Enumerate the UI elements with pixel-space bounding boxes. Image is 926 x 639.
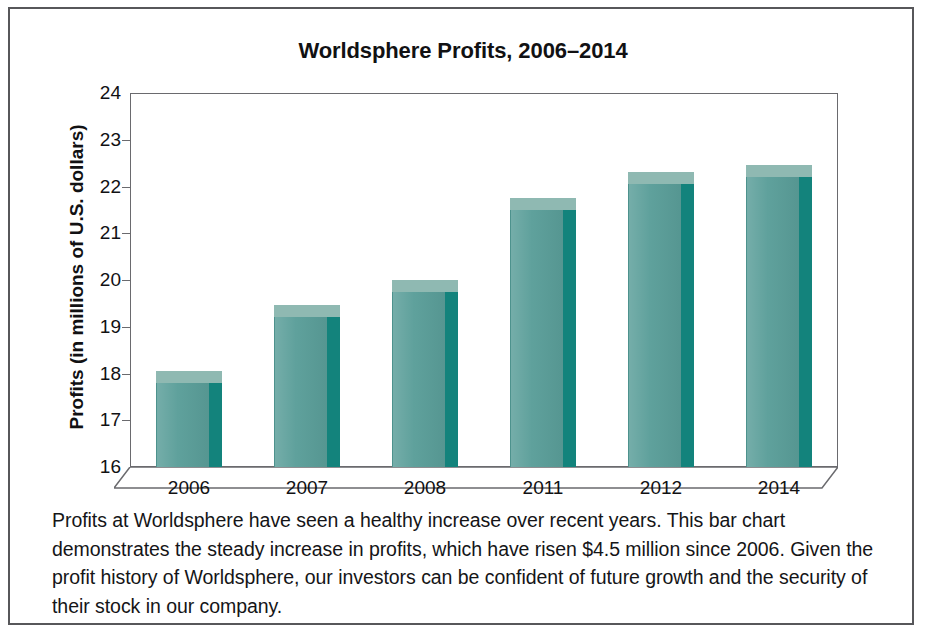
bar-top-side-face bbox=[562, 198, 576, 210]
bar-top-side-face bbox=[798, 165, 812, 177]
plot-area: 242322212019181716 bbox=[10, 71, 916, 506]
bar bbox=[628, 184, 680, 467]
bar-top-face bbox=[156, 371, 208, 383]
bar-front-face bbox=[156, 383, 209, 467]
x-tick-label: 2007 bbox=[252, 477, 362, 499]
bar-top-face bbox=[392, 280, 444, 292]
y-tick-mark bbox=[122, 187, 131, 188]
y-tick-label: 18 bbox=[81, 363, 121, 385]
bar-top-side-face bbox=[326, 305, 340, 317]
bar-front-face bbox=[510, 210, 563, 467]
y-tick-mark bbox=[122, 140, 131, 141]
bar-front-face bbox=[392, 292, 445, 467]
y-tick-mark bbox=[122, 374, 131, 375]
bar bbox=[746, 177, 798, 467]
bar-series bbox=[130, 71, 838, 506]
y-tick-label: 17 bbox=[81, 409, 121, 431]
figure-panel: Worldsphere Profits, 2006–2014 Profits (… bbox=[8, 7, 914, 625]
y-tick-label: 23 bbox=[81, 129, 121, 151]
figure-caption: Profits at Worldsphere have seen a healt… bbox=[52, 506, 880, 620]
bar bbox=[510, 210, 562, 467]
bar-top-face bbox=[510, 198, 562, 210]
y-tick-label: 21 bbox=[81, 222, 121, 244]
y-tick-label: 24 bbox=[81, 82, 121, 104]
x-tick-label: 2006 bbox=[134, 477, 244, 499]
y-tick-mark bbox=[122, 280, 131, 281]
bar-side-face bbox=[326, 317, 340, 467]
bar-side-face bbox=[208, 383, 222, 467]
bar-front-face bbox=[746, 177, 799, 467]
bar-top-face bbox=[274, 305, 326, 317]
y-tick-label: 22 bbox=[81, 176, 121, 198]
bar-front-face bbox=[274, 317, 327, 467]
y-tick-label: 16 bbox=[81, 456, 121, 478]
x-tick-label: 2014 bbox=[724, 477, 834, 499]
chart-title: Worldsphere Profits, 2006–2014 bbox=[10, 38, 916, 64]
bar-chart: Profits (in millions of U.S. dollars) 24… bbox=[10, 71, 916, 506]
y-tick-label: 19 bbox=[81, 316, 121, 338]
bar bbox=[392, 292, 444, 467]
bar-top-side-face bbox=[208, 371, 222, 383]
x-tick-label: 2012 bbox=[606, 477, 716, 499]
bar-top-side-face bbox=[680, 172, 694, 184]
bar-top-side-face bbox=[444, 280, 458, 292]
bar-top-face bbox=[628, 172, 680, 184]
x-tick-label: 2008 bbox=[370, 477, 480, 499]
y-tick-mark bbox=[122, 233, 131, 234]
bar-side-face bbox=[680, 184, 694, 467]
bar-side-face bbox=[444, 292, 458, 467]
y-tick-label: 20 bbox=[81, 269, 121, 291]
x-tick-label: 2011 bbox=[488, 477, 598, 499]
y-tick-mark bbox=[122, 327, 131, 328]
bar bbox=[156, 383, 208, 467]
bar-side-face bbox=[562, 210, 576, 467]
bar-side-face bbox=[798, 177, 812, 467]
bar-top-face bbox=[746, 165, 798, 177]
y-tick-mark bbox=[122, 420, 131, 421]
bar-front-face bbox=[628, 184, 681, 467]
bar bbox=[274, 317, 326, 467]
